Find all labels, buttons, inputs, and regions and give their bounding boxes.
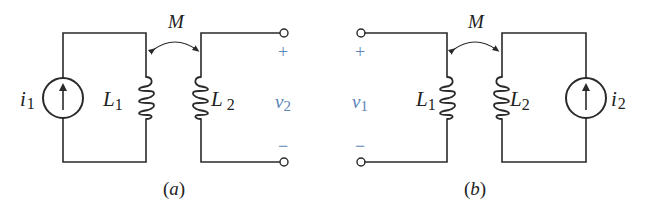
port-minus-sign: −	[355, 136, 365, 156]
current-source-i1	[43, 78, 83, 118]
circuit-b: L1 L2 i2 M + v1 − (b)	[352, 11, 626, 200]
port-terminal-bottom	[357, 158, 365, 166]
caption-a: (a)	[163, 178, 185, 200]
port-plus-sign: +	[278, 42, 288, 62]
inductor-l2-coil	[193, 77, 208, 119]
port-terminal-top	[357, 29, 365, 37]
port-terminal-top	[280, 29, 288, 37]
inductor-l1-coil	[139, 77, 154, 119]
mutual-coupling-arrow-icon	[453, 42, 497, 50]
inductor-l2-coil	[494, 77, 509, 119]
mutual-inductance-label: M	[167, 11, 185, 32]
inductor-label-l1: L1	[102, 87, 123, 113]
inductor-label-l1: L1	[415, 87, 436, 113]
coupled-inductors-figure: i1 L1 L2 M + v2 − (a)	[0, 0, 649, 217]
inductor-l1-coil	[440, 77, 455, 119]
port-terminal-bottom	[280, 158, 288, 166]
mutual-coupling-arrow-icon	[153, 42, 197, 50]
port-minus-sign: −	[278, 136, 288, 156]
circuit-a: i1 L1 L2 M + v2 − (a)	[20, 11, 291, 200]
mutual-inductance-label: M	[467, 11, 485, 32]
caption-b: (b)	[464, 178, 486, 200]
port-voltage-label-v1: v1	[352, 91, 368, 114]
inductor-label-l2: L2	[509, 87, 530, 113]
port-plus-sign: +	[355, 42, 365, 62]
source-label-i1: i1	[20, 87, 35, 112]
port-voltage-label-v2: v2	[275, 91, 291, 114]
inductor-label-l2: L2	[210, 87, 235, 113]
source-label-i2: i2	[611, 87, 626, 112]
current-source-i2	[566, 78, 606, 118]
